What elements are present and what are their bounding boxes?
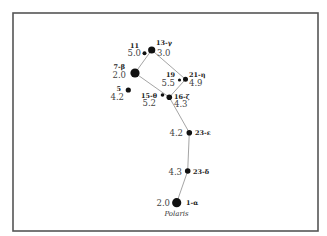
star-magnitude-label: 4.3 bbox=[168, 167, 182, 177]
star-designation-label: 1-α bbox=[186, 199, 198, 207]
constellation-svg: 13-γ3.0115.07-β2.054.2195.521-η4.915-θ5.… bbox=[0, 0, 327, 236]
star-designation-label: 23-ε bbox=[195, 129, 211, 137]
star-marker-s23e bbox=[187, 130, 193, 136]
star-magnitude-label: 4.2 bbox=[169, 128, 183, 138]
constellation-lines bbox=[135, 50, 189, 203]
constellation-diagram: 13-γ3.0115.07-β2.054.2195.521-η4.915-θ5.… bbox=[0, 0, 327, 236]
star-magnitude-label: 2.0 bbox=[112, 70, 126, 80]
constellation-line bbox=[188, 133, 190, 171]
star-marker-s16 bbox=[167, 95, 173, 101]
star-marker-s11 bbox=[143, 51, 147, 55]
star-labels: 13-γ3.0115.07-β2.054.2195.521-η4.915-θ5.… bbox=[110, 39, 210, 218]
star-magnitude-label: 2.0 bbox=[156, 198, 170, 208]
star-magnitude-label: 4.2 bbox=[110, 92, 124, 102]
star-marker-s21 bbox=[183, 77, 188, 82]
star-magnitude-label: 3.0 bbox=[157, 48, 171, 58]
star-magnitude-label: 5.0 bbox=[127, 48, 141, 58]
star-marker-s5 bbox=[126, 87, 131, 92]
star-magnitude-label: 4.3 bbox=[174, 99, 188, 109]
star-marker-s13 bbox=[148, 46, 155, 53]
star-designation-label: 23-δ bbox=[193, 168, 210, 176]
star-marker-s19 bbox=[178, 78, 181, 81]
star-magnitude-label: 5.2 bbox=[142, 98, 156, 108]
star-marker-s1 bbox=[172, 198, 181, 207]
star-magnitude-label: 5.5 bbox=[161, 78, 175, 88]
star-marker-s23d bbox=[185, 168, 191, 174]
star-marker-s15 bbox=[161, 93, 165, 97]
star-common-name-label: Polaris bbox=[163, 210, 189, 218]
star-marker-s7 bbox=[130, 68, 139, 77]
constellation-stars bbox=[126, 46, 192, 207]
star-designation-label: 13-γ bbox=[156, 39, 173, 47]
star-magnitude-label: 4.9 bbox=[189, 78, 203, 88]
